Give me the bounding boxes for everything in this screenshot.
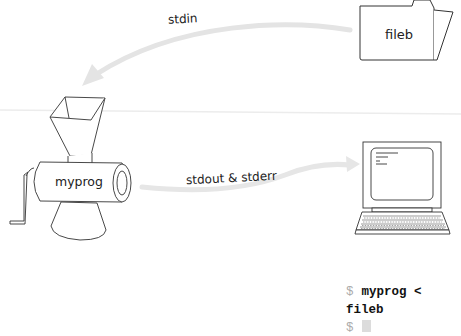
program-label: myprog: [55, 174, 103, 189]
terminal-line: $myprog < fileb: [346, 283, 461, 319]
shell-prompt: $: [346, 285, 354, 299]
terminal-line: $: [346, 319, 461, 336]
terminal-session: $myprog < fileb $: [346, 283, 461, 336]
computer-icon: [355, 142, 450, 234]
stdin-arrow: [82, 25, 350, 86]
terminal-cursor: [362, 320, 371, 332]
meat-grinder-icon: [10, 97, 131, 240]
stdin-label: stdin: [168, 11, 198, 27]
shell-prompt: $: [346, 321, 354, 335]
shell-command: myprog < fileb: [346, 285, 422, 317]
file-label: fileb: [385, 27, 413, 42]
